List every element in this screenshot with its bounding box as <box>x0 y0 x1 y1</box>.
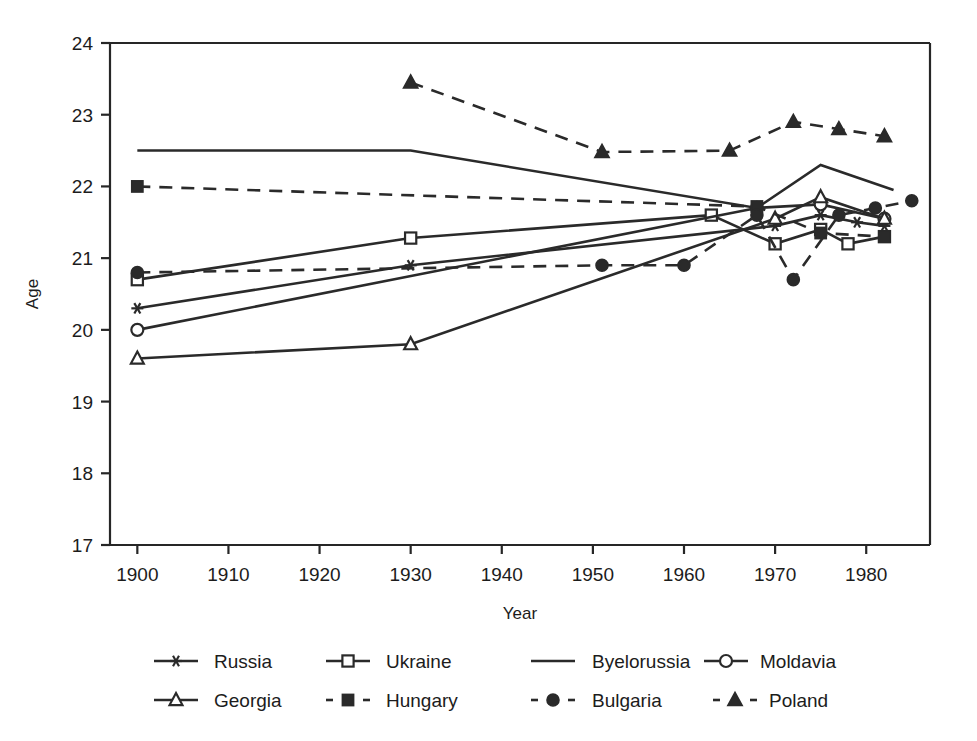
series-line <box>137 201 911 280</box>
marker-filled-circle <box>869 202 881 214</box>
marker-open-square <box>342 655 353 666</box>
x-tick-label: 1910 <box>207 564 249 585</box>
marker-filled-circle <box>678 259 690 271</box>
series-poland <box>404 75 892 157</box>
x-tick-label: 1920 <box>298 564 340 585</box>
legend-item-hungary[interactable]: Hungary <box>326 690 458 711</box>
y-tick-label: 21 <box>72 248 93 269</box>
marker-filled-circle <box>596 259 608 271</box>
chart-legend: RussiaUkraineByelorussiaMoldaviaGeorgiaH… <box>154 651 836 711</box>
series-line <box>411 82 885 152</box>
marker-asterisk <box>170 656 182 666</box>
y-tick-label: 24 <box>72 33 94 54</box>
marker-filled-circle <box>906 195 918 207</box>
marker-filled-triangle <box>786 114 800 127</box>
y-tick-label: 23 <box>72 105 93 126</box>
legend-label: Byelorussia <box>592 651 691 672</box>
legend-item-russia[interactable]: Russia <box>154 651 273 672</box>
series-layer <box>131 75 918 364</box>
y-axis-title: Age <box>23 279 42 309</box>
y-tick-label: 22 <box>72 176 93 197</box>
y-tick-label: 20 <box>72 320 93 341</box>
legend-item-ukraine[interactable]: Ukraine <box>326 651 451 672</box>
y-tick-label: 18 <box>72 463 93 484</box>
marker-filled-circle <box>751 209 763 221</box>
marker-open-circle <box>131 324 143 336</box>
marker-filled-square <box>132 181 143 192</box>
series-hungary <box>132 181 890 242</box>
marker-filled-square <box>815 227 826 238</box>
legend-item-bulgaria[interactable]: Bulgaria <box>531 690 662 711</box>
legend-label: Moldavia <box>760 651 836 672</box>
y-tick-label: 17 <box>72 535 93 556</box>
marker-filled-square <box>342 694 353 705</box>
marker-asterisk <box>851 217 863 227</box>
marker-open-triangle <box>814 190 827 202</box>
marker-asterisk <box>131 303 143 313</box>
marker-filled-circle <box>787 274 799 286</box>
legend-label: Georgia <box>214 690 282 711</box>
legend-item-moldavia[interactable]: Moldavia <box>704 651 836 672</box>
y-tick-label: 19 <box>72 392 93 413</box>
legend-label: Russia <box>214 651 273 672</box>
marker-asterisk <box>815 210 827 220</box>
series-russia <box>131 210 890 314</box>
marker-filled-circle <box>833 209 845 221</box>
marker-filled-square <box>879 231 890 242</box>
marker-filled-triangle <box>728 693 742 706</box>
x-tick-label: 1950 <box>572 564 614 585</box>
line-chart: 1718192021222324190019101920193019401950… <box>0 0 977 741</box>
legend-item-georgia[interactable]: Georgia <box>154 690 282 711</box>
x-tick-label: 1980 <box>845 564 887 585</box>
x-tick-label: 1970 <box>754 564 796 585</box>
x-tick-label: 1930 <box>390 564 432 585</box>
legend-label: Hungary <box>386 690 458 711</box>
legend-item-poland[interactable]: Poland <box>713 690 828 711</box>
x-axis-title: Year <box>503 604 538 623</box>
marker-filled-circle <box>131 266 143 278</box>
marker-filled-triangle <box>404 75 418 88</box>
marker-open-circle <box>720 655 732 667</box>
legend-label: Ukraine <box>386 651 451 672</box>
legend-item-byelorussia[interactable]: Byelorussia <box>531 651 691 672</box>
x-tick-label: 1900 <box>116 564 158 585</box>
legend-label: Poland <box>769 690 828 711</box>
x-tick-label: 1940 <box>481 564 523 585</box>
marker-open-square <box>842 238 853 249</box>
marker-filled-circle <box>547 694 559 706</box>
marker-open-square <box>405 232 416 243</box>
chart-figure: 1718192021222324190019101920193019401950… <box>0 0 977 741</box>
legend-label: Bulgaria <box>592 690 662 711</box>
x-tick-label: 1960 <box>663 564 705 585</box>
